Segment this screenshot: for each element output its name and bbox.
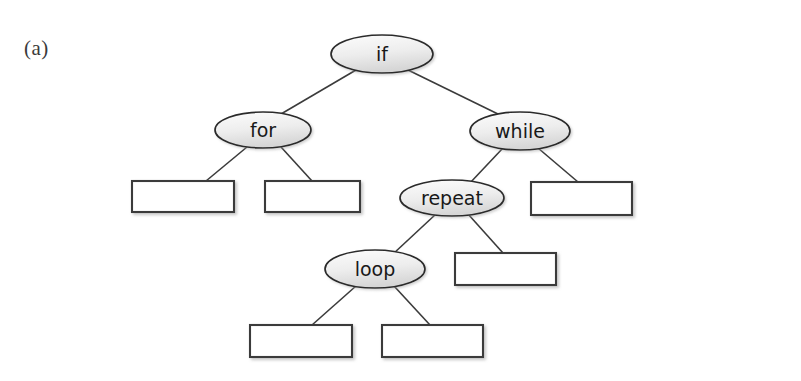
tree-node-while[interactable]: while [470,112,570,150]
tree-node-label-if: if [376,43,389,65]
tree-leaf-box-leaf-for-right[interactable] [265,181,360,212]
tree-edge-loop-leaf-right [394,286,430,325]
tree-leaf-box-leaf-repeat-right[interactable] [455,253,556,285]
tree-edge-loop-leaf-left [312,286,356,325]
tree-node-loop[interactable]: loop [325,250,425,288]
tree-node-for[interactable]: for [215,112,311,148]
tree-edge-while-leaf-right [538,148,578,182]
tree-leaf-box-leaf-loop-right[interactable] [382,325,483,357]
tree-edge-repeat-loop [393,214,436,254]
tree-edge-if-while [408,70,500,115]
tree-node-repeat[interactable]: repeat [400,180,504,216]
tree-node-label-loop: loop [355,258,396,280]
figure-container: (a) ifforwhilerepeatloop [0,0,801,381]
tree-node-if[interactable]: if [331,35,433,73]
tree-edge-for-leaf-right [281,147,312,181]
tree-node-label-for: for [250,119,276,141]
tree-edge-for-leaf-left [206,147,247,181]
tree-leaf-box-leaf-for-left[interactable] [132,181,234,212]
tree-edge-if-for [281,70,356,114]
tree-node-label-repeat: repeat [421,187,483,209]
tree-leaf-box-leaf-while-right[interactable] [531,182,632,215]
syntax-tree-diagram: ifforwhilerepeatloop [0,0,801,381]
tree-node-label-while: while [495,120,545,142]
tree-edge-while-repeat [469,148,503,184]
tree-edge-repeat-leaf-right [468,214,503,253]
labeled-nodes-layer: ifforwhilerepeatloop [215,35,570,288]
tree-leaf-box-leaf-loop-left[interactable] [250,325,352,357]
